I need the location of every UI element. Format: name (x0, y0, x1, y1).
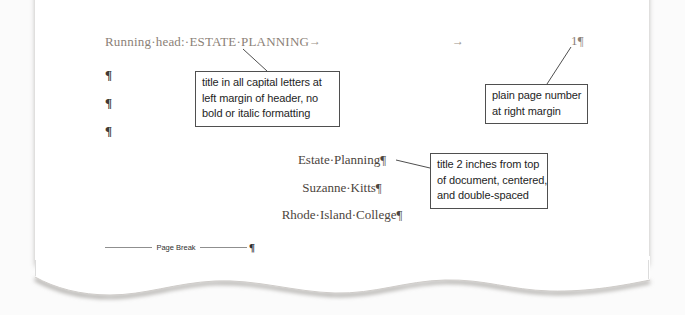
callout-title-position: title 2 inches from top of document, cen… (430, 153, 548, 209)
callout-line: title in all capital letters at (202, 75, 334, 91)
callout-line: left margin of header, no (202, 91, 334, 107)
callout-header-title: title in all capital letters at left mar… (195, 71, 340, 127)
figure-canvas: Running·head:·ESTATE·PLANNING → → 1¶ ¶ ¶… (0, 0, 685, 315)
running-head-text[interactable]: Running·head:·ESTATE·PLANNING (105, 34, 309, 50)
tab-arrow-icon: → (452, 34, 464, 49)
callout-line: and double-spaced (437, 188, 542, 204)
pilcrow-icon: ¶ (105, 123, 112, 139)
page-break-label: Page Break (152, 243, 199, 252)
callout-line: plain page number (492, 88, 582, 104)
pilcrow-icon: ¶ (105, 67, 112, 83)
page-break-indicator: Page Break ¶ (105, 241, 255, 254)
page-number-text[interactable]: 1¶ (571, 33, 584, 49)
callout-page-number: plain page number at right margin (485, 84, 588, 124)
tab-arrow-icon: → (309, 34, 321, 49)
callout-line: bold or italic formatting (202, 106, 334, 122)
page-break-line (200, 247, 247, 248)
document-author-line[interactable]: Suzanne·Kitts¶ (35, 180, 649, 196)
document-title-line[interactable]: Estate·Planning¶ (35, 152, 649, 168)
page-bottom-edge-line (35, 277, 650, 295)
callout-line: title 2 inches from top (437, 157, 542, 173)
callout-line: at right margin (492, 104, 582, 120)
page-bottom-shadow (35, 279, 650, 297)
pilcrow-icon: ¶ (249, 241, 255, 254)
callout-line: of document, centered, (437, 173, 542, 189)
document-affiliation-line[interactable]: Rhode·Island·College¶ (35, 207, 649, 223)
page-break-line (105, 247, 152, 248)
pilcrow-icon: ¶ (105, 95, 112, 111)
